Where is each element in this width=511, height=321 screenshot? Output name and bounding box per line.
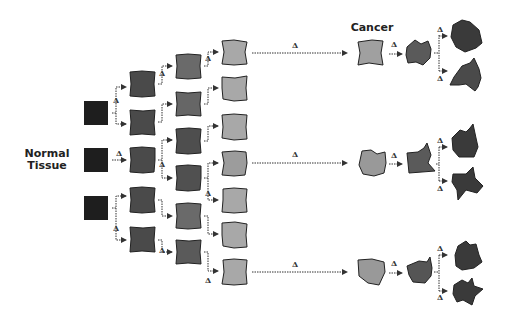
cancer-early-cells: [358, 40, 386, 285]
delta-icon: Δ: [437, 243, 443, 253]
cancer-arrows: [389, 54, 402, 273]
delta-icon: Δ: [205, 275, 211, 285]
connectors-stage3: [204, 52, 218, 271]
gen3-cell: [222, 259, 247, 285]
delta-icon: Δ: [116, 148, 122, 158]
cancer-mid-cell: [407, 257, 432, 283]
delta-icon: Δ: [159, 68, 165, 78]
delta-icon: Δ: [437, 183, 443, 193]
cancer-late-cell: [451, 20, 482, 52]
cancer-early-cell: [358, 40, 383, 65]
delta-icon: Δ: [159, 159, 165, 169]
normal-tissue-cells: [84, 101, 108, 220]
normal-tissue-label: Normal Tissue: [14, 148, 80, 172]
cancer-evolution-diagram: Δ Δ Δ Δ Δ Δ Δ Δ Δ Δ Δ Δ Δ Δ Δ Δ Δ Δ Δ Δ …: [0, 0, 511, 321]
gen3-cell: [222, 114, 247, 140]
gen1-cell: [130, 187, 155, 213]
cancer-late-cell: [453, 278, 483, 305]
gen3-cell: [222, 76, 247, 101]
generation1-cells: [130, 71, 155, 252]
delta-icon: Δ: [205, 188, 211, 198]
gen1-cell: [130, 110, 155, 135]
normal-cell: [84, 196, 108, 220]
gen3-cell: [222, 222, 247, 248]
cancer-late-cell: [452, 167, 483, 200]
gen1-cell: [130, 227, 155, 252]
normal-cell: [84, 148, 108, 172]
gen3-cell: [222, 40, 247, 65]
cancer-early-cell: [359, 150, 386, 176]
cancer-late-cell: [455, 241, 482, 270]
delta-icon: Δ: [113, 95, 119, 105]
cancer-mid-cell: [407, 143, 435, 173]
delta-icon: Δ: [437, 24, 443, 34]
gen3-cell: [222, 188, 247, 213]
normal-tissue-label-line2: Tissue: [14, 160, 80, 172]
gen2-cell: [176, 240, 201, 264]
delta-icon: Δ: [391, 150, 397, 160]
delta-icon: Δ: [292, 259, 298, 269]
generation2-cells: [176, 54, 201, 264]
delta-icon: Δ: [391, 258, 397, 268]
delta-icon: Δ: [292, 149, 298, 159]
gen2-cell: [176, 128, 201, 154]
gen1-cell: [130, 147, 155, 173]
delta-icon: Δ: [437, 135, 443, 145]
gen2-cell: [176, 92, 201, 116]
normal-cell: [84, 101, 108, 125]
delta-icon: Δ: [159, 245, 165, 255]
gen2-cell: [176, 165, 201, 191]
gen3-cell: [222, 151, 247, 176]
cancer-mid-cell: [406, 40, 431, 65]
cancer-late-cell: [452, 124, 478, 157]
generation3-cells: [222, 40, 247, 285]
long-progression-arrows: [252, 53, 347, 272]
delta-icon: Δ: [391, 39, 397, 49]
cancer-early-cell: [358, 259, 385, 285]
connectors-stage1: [112, 87, 126, 240]
cancer-label: Cancer: [346, 22, 398, 34]
gen1-cell: [130, 71, 155, 97]
cancer-mid-cells: [406, 40, 435, 283]
delta-icon: Δ: [437, 292, 443, 302]
delta-icon: Δ: [205, 53, 211, 63]
delta-icon: Δ: [437, 73, 443, 83]
delta-icon: Δ: [113, 223, 119, 233]
cancer-late-cell: [450, 58, 481, 91]
cancer-late-cells: [450, 20, 483, 305]
delta-icon: Δ: [292, 40, 298, 50]
gen2-cell: [176, 203, 201, 229]
gen2-cell: [176, 54, 201, 79]
